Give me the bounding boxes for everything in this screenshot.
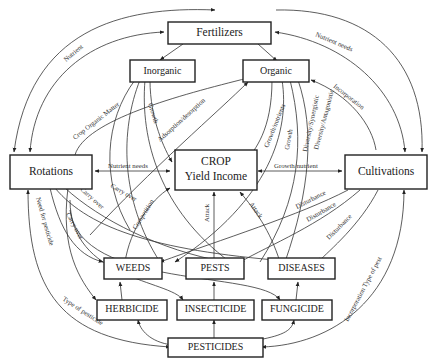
svg-text:PESTICIDES: PESTICIDES: [188, 341, 244, 352]
svg-text:Yield Income: Yield Income: [185, 170, 247, 182]
label-growth-organic: Growth: [283, 128, 294, 150]
node-fungicide: FUNGICIDE: [262, 300, 332, 320]
edge-rot-herbicide: [66, 188, 96, 300]
svg-text:WEEDS: WEEDS: [116, 262, 150, 273]
node-cultivations: Cultivations: [345, 155, 427, 189]
edge-herbicide-weeds: [120, 282, 122, 300]
label-growth-nutrient: Growth/nutrient: [274, 162, 318, 169]
node-inorganic: Inorganic: [130, 60, 195, 82]
label-carry-over-3: Carry over: [65, 211, 85, 241]
svg-text:DISEASES: DISEASES: [278, 262, 325, 273]
label-crop-organic-matter: Crop Organic Matter: [71, 100, 121, 141]
label-nutrient-needs-top: Nutrient needs: [315, 30, 355, 52]
edge-pesticides-fungicide: [258, 320, 294, 340]
svg-text:Inorganic: Inorganic: [143, 65, 182, 76]
edge-fungicide-diseases: [296, 282, 298, 300]
label-incorporation: Incorporation: [332, 82, 366, 111]
edge-fertilizers-organic: [258, 44, 277, 61]
node-pests: PESTS: [186, 258, 244, 279]
label-attack-1: Attack: [203, 203, 210, 222]
crop-system-diagram: Nutrient Nutrient needs Crop Organic Mat…: [0, 0, 436, 363]
svg-text:Cultivations: Cultivations: [358, 165, 415, 177]
edge-rot-fungicide: [70, 210, 280, 300]
edge-fertilizers-inorganic: [160, 44, 183, 60]
node-pesticides: PESTICIDES: [168, 338, 263, 357]
node-fertilizers: Fertilizers: [168, 22, 271, 44]
edge-nutrient: [30, 32, 164, 152]
node-organic: Organic: [243, 60, 309, 82]
svg-text:Organic: Organic: [260, 65, 293, 76]
edge-disturbance-3: [318, 190, 378, 262]
svg-text:PESTS: PESTS: [201, 262, 230, 273]
label-adsorption: Adsorption/desorption: [156, 96, 207, 143]
node-crop: CROP Yield Income: [175, 150, 257, 190]
node-insecticide: INSECTICIDE: [177, 300, 254, 320]
svg-text:Fertilizers: Fertilizers: [196, 26, 243, 38]
svg-text:CROP: CROP: [201, 155, 231, 167]
node-herbicide: HERBICIDE: [97, 300, 167, 320]
label-incorporation-type-of-pest: Incorporation Type of pest: [343, 255, 383, 322]
edge-pesticides-herbicide: [138, 320, 172, 345]
label-competition: Competition: [131, 197, 155, 230]
label-growth-inorganic: Growth: [147, 102, 160, 124]
label-attack-2: Attack: [248, 201, 264, 220]
node-weeds: WEEDS: [104, 258, 162, 279]
node-diseases: DISEASES: [268, 258, 335, 279]
svg-text:INSECTICIDE: INSECTICIDE: [185, 303, 247, 314]
svg-text:Rotations: Rotations: [29, 165, 74, 177]
svg-text:FUNGICIDE: FUNGICIDE: [270, 303, 324, 314]
label-nutrient-needs-mid: Nutrient needs: [108, 162, 148, 169]
node-rotations: Rotations: [10, 155, 92, 189]
label-nutrient: Nutrient: [62, 43, 84, 63]
svg-text:HERBICIDE: HERBICIDE: [105, 303, 158, 314]
label-need-for-pesticide: Need for pesticide: [35, 196, 55, 246]
label-disturbance-3: Disturbance: [325, 213, 353, 241]
